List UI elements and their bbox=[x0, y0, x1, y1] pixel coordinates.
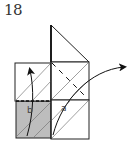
origami-diagram: b a bbox=[0, 0, 134, 144]
label-b: b bbox=[27, 105, 33, 115]
label-a: a bbox=[61, 103, 67, 113]
top-triangle-flap bbox=[51, 25, 89, 62]
